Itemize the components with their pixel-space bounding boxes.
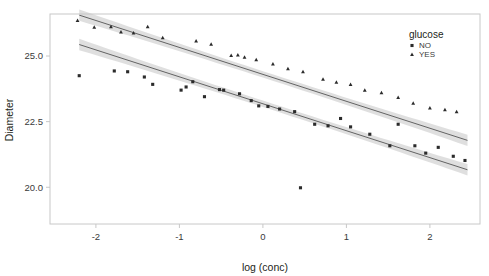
x-tick-label: 2 [427,231,432,242]
legend-label-yes: YES [419,50,435,59]
x-axis-title: log (conc) [242,261,288,273]
plus-marker [238,92,241,95]
plus-marker [218,88,221,91]
plus-marker [437,146,440,149]
plot-background [0,0,489,276]
plus-marker [151,83,154,86]
plus-marker [203,95,206,98]
plus-marker [180,89,183,92]
scatter-plot-figure: -2-1012 20.022.525.0 log (conc) Diameter… [0,0,489,276]
legend-title: glucose [409,29,444,40]
plus-marker [257,104,260,107]
plus-marker [250,99,253,102]
y-tick-label: 25.0 [25,50,44,61]
plus-marker [452,155,455,158]
x-tick-label: 1 [344,231,349,242]
y-tick-label: 20.0 [25,182,44,193]
plus-marker [424,152,427,155]
plot-canvas: -2-1012 20.022.525.0 log (conc) Diameter… [0,0,489,276]
x-tick-label: -1 [175,231,183,242]
plus-marker [410,44,413,47]
plus-marker [191,80,194,83]
plus-marker [326,124,329,127]
plus-marker [349,125,352,128]
plus-marker [293,110,296,113]
plus-marker [413,144,416,147]
plus-marker [185,85,188,88]
plus-marker [339,117,342,120]
y-tick-label: 22.5 [25,116,44,127]
plus-marker [313,123,316,126]
plus-marker [126,70,129,73]
plus-marker [278,107,281,110]
plus-marker [368,133,371,136]
plus-marker [78,74,81,77]
y-axis-title: Diameter [3,98,15,141]
plus-marker [113,69,116,72]
plus-marker [222,89,225,92]
plus-marker [299,186,302,189]
plus-marker [143,75,146,78]
x-tick-label: -2 [92,231,100,242]
legend-label-no: NO [419,41,431,50]
plus-marker [397,123,400,126]
plus-marker [388,144,391,147]
plus-marker [463,159,466,162]
x-tick-label: 0 [260,231,265,242]
plus-marker [266,105,269,108]
